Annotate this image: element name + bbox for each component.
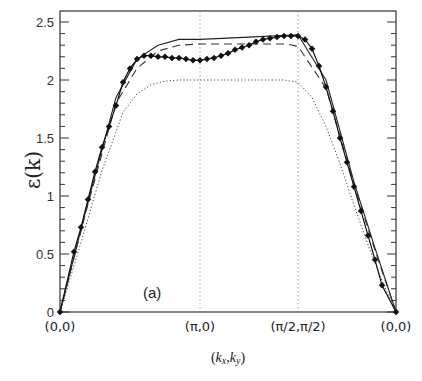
data-point-marker: [239, 44, 246, 51]
data-point-marker: [190, 57, 197, 64]
data-point-marker: [288, 33, 295, 40]
x-axis-tick-labels: (0,0)(π,0)(π/2,π/2)(0,0): [45, 319, 412, 334]
data-point-marker: [148, 52, 155, 59]
data-point-marker: [197, 57, 204, 64]
x-tick-label: (0,0): [45, 319, 76, 334]
data-point-marker: [281, 33, 288, 40]
y-axis-title: ε(k): [21, 151, 45, 189]
y-tick-label: 1.5: [36, 131, 54, 146]
data-point-marker: [358, 208, 365, 215]
data-point-marker: [106, 123, 113, 130]
data-point-marker: [204, 56, 211, 63]
data-point-marker: [155, 54, 162, 61]
y-tick-label: 0.5: [36, 247, 54, 262]
x-tick-label: (0,0): [381, 319, 412, 334]
data-point-marker: [246, 42, 253, 49]
x-tick-label: (π,0): [185, 319, 215, 334]
data-point-marker: [57, 309, 64, 316]
panel-label: (a): [143, 284, 161, 301]
data-point-marker: [260, 36, 267, 43]
y-tick-label: 2: [47, 73, 54, 88]
data-point-marker: [274, 34, 281, 41]
data-point-marker: [316, 63, 323, 70]
y-tick-label: 1: [47, 189, 54, 204]
data-point-marker: [162, 54, 169, 61]
y-axis-ticks: 00.511.522.5: [36, 15, 396, 320]
data-point-marker: [225, 50, 232, 57]
x-axis-title: (kx,ky): [211, 350, 246, 366]
series-dashed: [60, 44, 396, 312]
data-point-marker: [218, 52, 225, 59]
data-point-marker: [169, 55, 176, 62]
series-points-line: [60, 36, 396, 312]
y-tick-label: 2.5: [36, 15, 54, 30]
data-point-marker: [176, 55, 183, 62]
dispersion-chart: 00.511.522.5 (0,0)(π,0)(π/2,π/2)(0,0) (a…: [0, 0, 422, 381]
data-point-marker: [393, 309, 400, 316]
data-point-marker: [379, 282, 386, 289]
series-solid: [60, 35, 396, 312]
series-dotted: [60, 80, 396, 312]
x-tick-label: (π/2,π/2): [270, 319, 325, 334]
data-series: [57, 33, 400, 316]
data-point-marker: [78, 224, 85, 231]
data-point-marker: [183, 56, 190, 63]
data-point-marker: [211, 55, 218, 62]
data-point-marker: [232, 47, 239, 54]
y-tick-label: 0: [47, 305, 54, 320]
